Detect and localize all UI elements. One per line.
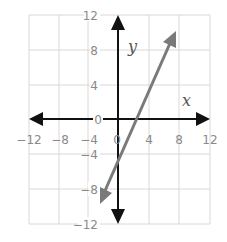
y-axis-down-arrow-icon [111, 209, 125, 224]
x-tick-neg12: −12 [16, 133, 41, 147]
y-axis-label: y [127, 37, 138, 56]
x-tick-8: 8 [175, 133, 183, 147]
x-tick-labels: −12 −8 −4 0 4 8 12 [16, 133, 217, 147]
coordinate-plane: 12 8 4 −4 −8 −12 0 −12 −8 −4 0 4 8 12 y … [0, 0, 227, 242]
x-tick-0: 0 [113, 133, 121, 147]
y-tick-12: 12 [83, 9, 98, 23]
x-tick-neg4: −4 [80, 133, 98, 147]
y-tick-neg4: −4 [80, 148, 98, 162]
x-axis-label: x [182, 91, 191, 110]
y-tick-0: 0 [94, 113, 102, 127]
y-tick-neg8: −8 [80, 183, 98, 197]
y-tick-neg12: −12 [73, 218, 98, 232]
x-tick-neg8: −8 [51, 133, 69, 147]
x-axis-right-arrow-icon [196, 112, 210, 126]
x-tick-12: 12 [202, 133, 217, 147]
axes [29, 15, 210, 224]
plotted-line [100, 31, 176, 204]
x-axis-left-arrow-icon [29, 112, 43, 126]
y-tick-8: 8 [90, 44, 98, 58]
y-tick-4: 4 [90, 79, 98, 93]
y-axis-up-arrow-icon [111, 15, 125, 30]
x-tick-4: 4 [145, 133, 153, 147]
